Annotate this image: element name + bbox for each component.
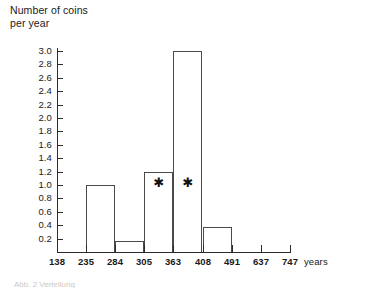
y-axis-tick-label-text: 1.6 [26,140,52,150]
x-axis-tick [290,245,291,252]
x-axis-tick [232,245,233,252]
y-axis-tick [58,51,63,52]
y-axis-tick-label-text: 0.8 [26,193,52,203]
y-axis-tick [58,105,63,106]
y-axis-tick-label: 0.2 [0,234,52,244]
y-axis-tick-label: 2.2 [0,100,52,110]
histogram-bar [173,51,202,252]
y-axis-tick-label: 2.4 [0,86,52,96]
x-axis-tick [57,245,58,252]
y-axis-tick-label-text: 0.4 [26,220,52,230]
y-axis-tick-label-text: 1.4 [26,153,52,163]
chart-title: Number of coins per year [10,4,88,30]
y-axis-tick-label-text: 2.2 [26,100,52,110]
caption-scrap: Abb. 2 Verteilung [14,281,214,288]
y-axis-tick [58,198,63,199]
y-axis-tick-label: 0.6 [0,207,52,217]
star-annotation: ✱ [183,176,194,189]
y-axis-tick-label: 2.0 [0,113,52,123]
x-axis-tick-label: 408 [195,256,211,267]
y-axis-tick [58,225,63,226]
x-axis-tick [203,245,204,252]
x-axis-units-label: years [304,256,328,267]
y-axis-tick [58,131,63,132]
x-axis-tick-label: 491 [224,256,240,267]
y-axis-tick-label: 2.6 [0,73,52,83]
histogram-bar [86,185,115,252]
x-axis-tick-label: 284 [107,256,123,267]
y-axis-tick-label: 2.8 [0,59,52,69]
y-axis-tick-label-text: 0.6 [26,207,52,217]
y-axis-tick [58,172,63,173]
x-axis-tick [173,245,174,252]
y-axis-tick [58,64,63,65]
y-axis-tick-label-text: 1.8 [26,126,52,136]
histogram-bar [115,241,144,252]
x-axis-tick-label: 747 [282,256,298,267]
y-axis-tick [58,185,63,186]
y-axis-tick-label-text: 2.6 [26,73,52,83]
y-axis-tick [58,118,63,119]
y-axis-tick-label-text: 1.2 [26,167,52,177]
y-axis-tick-label-text: 2.8 [26,59,52,69]
y-axis-tick-label: 1.8 [0,126,52,136]
y-axis-tick [58,239,63,240]
y-axis-tick-label: 1.0 [0,180,52,190]
y-axis-tick-label-text: 2.4 [26,86,52,96]
histogram-bar [203,227,232,252]
x-axis-tick-label: 138 [49,256,65,267]
x-axis-tick-label: 235 [78,256,94,267]
y-axis-tick-label-text: 3.0 [26,46,52,56]
y-axis-tick-label: 1.6 [0,140,52,150]
y-axis-tick-label: 1.2 [0,167,52,177]
x-axis-tick [86,245,87,252]
y-axis-tick-label: 0.4 [0,220,52,230]
x-axis-tick-label: 637 [253,256,269,267]
y-axis-tick-label-text: 1.0 [26,180,52,190]
x-axis-line [57,252,291,253]
y-axis-tick [58,158,63,159]
y-axis-tick-label: 1.4 [0,153,52,163]
x-axis-tick-label: 305 [136,256,152,267]
y-axis-tick-label: 3.0 [0,46,52,56]
y-axis-tick-label-text: 2.0 [26,113,52,123]
x-axis-tick-label: 363 [165,256,181,267]
coin-histogram-chart: Number of coins per year 3.02.82.62.42.2… [0,0,367,289]
x-axis-tick [261,245,262,252]
y-axis-tick [58,78,63,79]
y-axis-tick [58,145,63,146]
star-annotation: ✱ [154,176,165,189]
y-axis-tick-label: 0.8 [0,193,52,203]
y-axis-tick-label-text: 0.2 [26,234,52,244]
y-axis-tick [58,212,63,213]
x-axis-tick [115,245,116,252]
x-axis-tick [144,245,145,252]
y-axis-tick [58,91,63,92]
